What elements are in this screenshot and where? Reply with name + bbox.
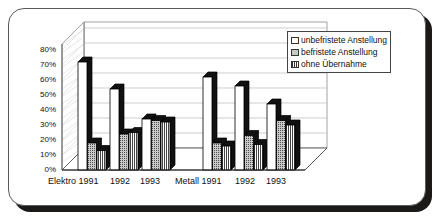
x-axis-tick-label: Metall 1991 [175,176,222,186]
legend-item-label: befristete Anstellung [301,48,378,57]
hatched-swatch-icon [291,61,299,68]
legend-item: ohne Übernahme [291,58,387,70]
chart-screenshot: 80%70%60%50%40%30%20%10%0% Elektro 19911… [0,0,438,223]
y-axis-tick-label: 10% [40,151,56,159]
y-axis-tick-label: 20% [40,136,56,144]
y-axis-tick-label: 40% [40,106,56,114]
x-axis-tick-label: 1992 [110,176,130,186]
x-axis-tick-label: Elektro 1991 [48,176,99,186]
y-axis-tick-label: 80% [40,46,56,54]
dotted-swatch-icon [291,49,299,56]
x-axis-tick-label: 1993 [266,176,286,186]
chart-legend: unbefristete Anstellung befristete Anste… [287,31,391,73]
x-axis-tick-label: 1993 [140,176,160,186]
y-axis-tick-label: 60% [40,76,56,84]
legend-item-label: ohne Übernahme [301,60,367,69]
x-axis-category-labels: Elektro 199119921993Metall 199119921993 [0,176,438,190]
y-axis-tick-label: 0% [44,166,56,174]
legend-item-label: unbefristete Anstellung [301,36,387,45]
y-axis-tick-label: 70% [40,61,56,69]
legend-item: befristete Anstellung [291,46,387,58]
white-swatch-icon [291,37,299,44]
y-axis-tick-label: 30% [40,121,56,129]
legend-item: unbefristete Anstellung [291,34,387,46]
x-axis-tick-label: 1992 [235,176,255,186]
y-axis-tick-label: 50% [40,91,56,99]
